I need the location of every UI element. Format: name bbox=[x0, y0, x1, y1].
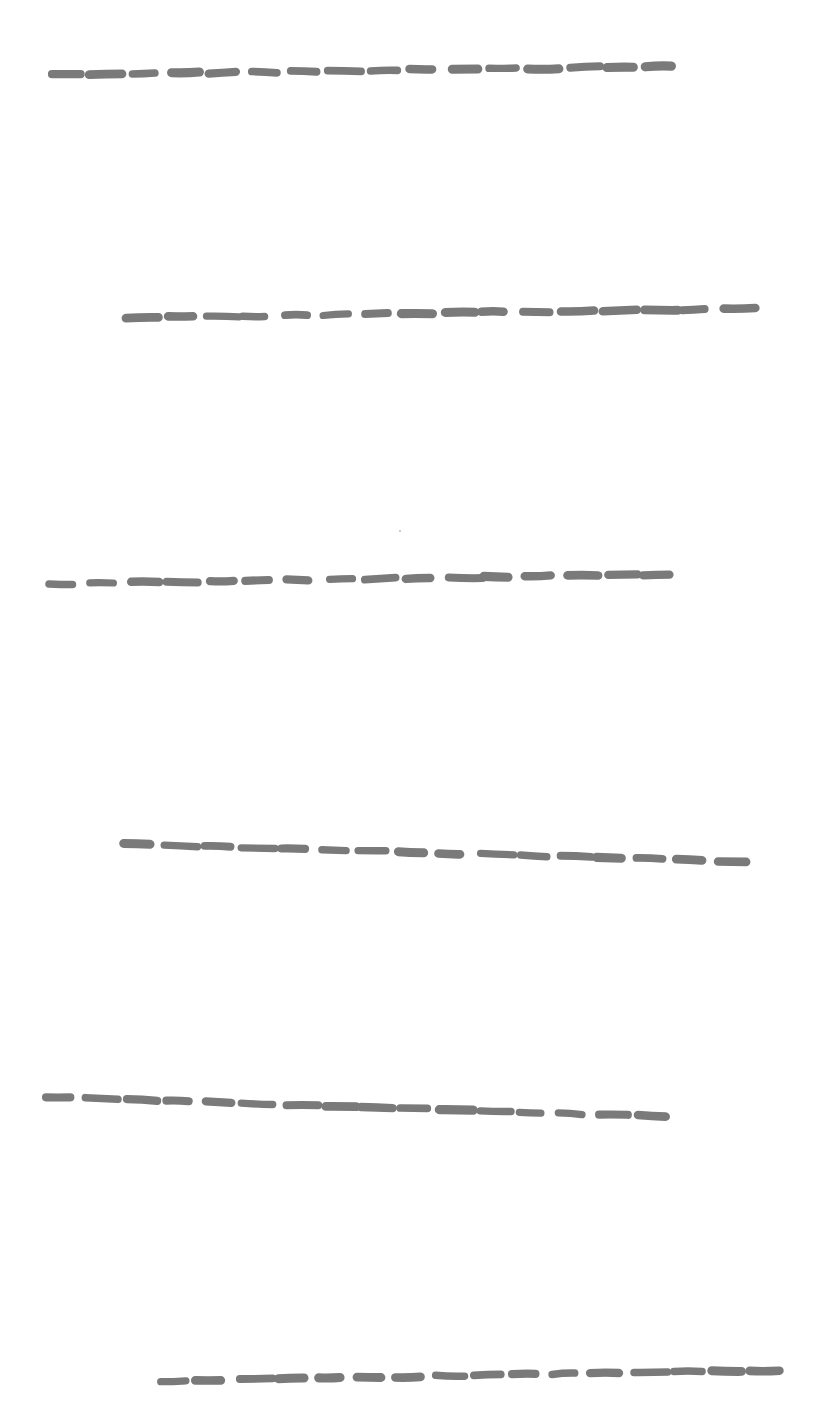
dash-segment bbox=[371, 70, 398, 71]
dash-segment bbox=[643, 575, 670, 576]
dashed-writing-line-5 bbox=[46, 1097, 666, 1116]
dash-segment bbox=[712, 1371, 742, 1372]
dash-segment bbox=[439, 854, 461, 855]
dash-segment bbox=[164, 845, 197, 847]
dash-segment bbox=[89, 74, 122, 75]
dash-segment bbox=[127, 1099, 157, 1101]
dash-segment bbox=[449, 578, 483, 579]
dash-segment bbox=[484, 576, 508, 577]
dash-segment bbox=[252, 72, 277, 73]
dash-segment bbox=[85, 1098, 118, 1100]
dashed-writing-line-2 bbox=[126, 308, 755, 318]
dash-segment bbox=[645, 66, 671, 67]
dash-segment bbox=[481, 853, 514, 854]
dash-segment bbox=[682, 309, 705, 310]
dash-segment bbox=[124, 843, 150, 844]
dash-segment bbox=[206, 1101, 232, 1103]
dashed-lines-canvas bbox=[0, 0, 818, 1404]
dash-segment bbox=[395, 1377, 420, 1378]
dash-segment bbox=[126, 317, 158, 318]
dash-segment bbox=[552, 1373, 575, 1374]
dash-segment bbox=[361, 1107, 393, 1108]
dash-segment bbox=[561, 311, 594, 312]
dash-segment bbox=[519, 1112, 541, 1113]
dash-segment bbox=[474, 1374, 501, 1375]
dash-segment bbox=[436, 1375, 465, 1376]
dash-segment bbox=[241, 1103, 272, 1104]
dash-segment bbox=[328, 71, 361, 72]
dash-segment bbox=[439, 1110, 473, 1111]
dash-segment bbox=[558, 1113, 582, 1115]
dash-segment bbox=[172, 72, 200, 73]
dash-segment bbox=[724, 308, 756, 309]
dash-segment bbox=[528, 69, 559, 70]
dash-segment bbox=[330, 579, 353, 580]
dash-segment bbox=[240, 1378, 273, 1379]
dash-segment bbox=[210, 581, 234, 582]
dash-segment bbox=[445, 312, 475, 313]
dash-segment bbox=[608, 574, 637, 575]
dash-segment bbox=[570, 66, 600, 68]
dash-segment bbox=[167, 582, 198, 583]
stray-mark bbox=[399, 530, 401, 532]
dash-segment bbox=[525, 575, 551, 576]
dash-segment bbox=[603, 310, 637, 312]
dash-segment bbox=[365, 578, 396, 580]
dashed-writing-line-6 bbox=[161, 1371, 780, 1382]
dashed-writing-line-1 bbox=[52, 66, 671, 75]
dash-segment bbox=[750, 1371, 780, 1372]
dash-segment bbox=[637, 858, 663, 859]
dash-segment bbox=[323, 314, 348, 316]
dash-segment bbox=[676, 859, 702, 860]
dash-segment bbox=[205, 846, 231, 847]
dash-segment bbox=[322, 850, 346, 851]
dash-segment bbox=[245, 580, 268, 581]
worksheet-page bbox=[0, 0, 818, 1404]
dash-segment bbox=[480, 1111, 511, 1112]
dash-segment bbox=[166, 1100, 188, 1101]
dash-segment bbox=[209, 72, 236, 74]
dash-segment bbox=[278, 1378, 304, 1379]
dash-segment bbox=[49, 584, 73, 585]
dash-segment bbox=[291, 71, 317, 72]
dash-segment bbox=[597, 857, 622, 858]
dash-segment bbox=[132, 73, 155, 74]
dash-segment bbox=[161, 1381, 186, 1382]
dashed-writing-line-4 bbox=[124, 843, 746, 862]
dash-segment bbox=[561, 856, 592, 857]
dash-segment bbox=[287, 579, 309, 580]
dashed-writing-line-3 bbox=[49, 574, 670, 584]
dash-segment bbox=[521, 855, 547, 857]
dash-segment bbox=[398, 852, 423, 853]
dash-segment bbox=[481, 311, 503, 312]
dash-segment bbox=[241, 848, 275, 849]
dash-segment bbox=[406, 578, 431, 579]
dash-segment bbox=[365, 313, 388, 314]
dash-segment bbox=[638, 1115, 666, 1117]
dash-segment bbox=[207, 316, 240, 317]
